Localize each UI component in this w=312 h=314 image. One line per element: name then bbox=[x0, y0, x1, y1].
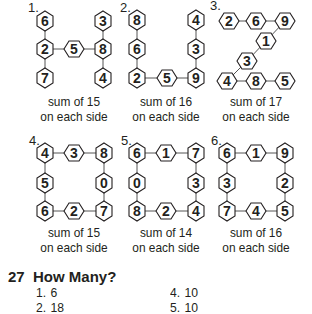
node-value: 6 bbox=[133, 145, 141, 161]
answer-item: 4.10 bbox=[170, 285, 198, 300]
node-value: 5 bbox=[70, 41, 78, 57]
answer-number: 2. bbox=[36, 300, 50, 314]
node-value: 2 bbox=[41, 41, 49, 57]
node-value: 2 bbox=[70, 203, 78, 219]
caption-sum: sum of 15 bbox=[30, 94, 118, 109]
puzzle-5-label: 5. bbox=[121, 134, 132, 147]
section-number: 27 bbox=[8, 268, 33, 285]
node-value: 5 bbox=[163, 70, 171, 86]
node-value: 0 bbox=[100, 175, 108, 191]
puzzle-4-label: 4. bbox=[29, 134, 40, 147]
puzzle-2-diagram: 8625934 bbox=[129, 10, 204, 88]
hexagon-node: 4 bbox=[188, 201, 204, 221]
hexagon-node: 4 bbox=[188, 10, 204, 30]
puzzle-3-diagram: 26913485 bbox=[217, 13, 295, 89]
node-value: 2 bbox=[133, 70, 141, 86]
hexagon-node: 8 bbox=[96, 143, 112, 163]
puzzle-3-caption: sum of 17 on each side bbox=[212, 94, 300, 124]
hexagon-node: 2 bbox=[37, 39, 53, 59]
hexagon-node: 2 bbox=[277, 173, 293, 193]
node-value: 3 bbox=[99, 13, 107, 29]
caption-side: on each side bbox=[122, 240, 210, 255]
hexagon-node: 4 bbox=[95, 68, 111, 88]
hexagon-node: 6 bbox=[246, 13, 266, 29]
node-value: 0 bbox=[133, 175, 141, 191]
hexagon-node: 6 bbox=[37, 11, 53, 31]
hexagon-node: 8 bbox=[129, 201, 145, 221]
hexagon-node: 3 bbox=[188, 173, 204, 193]
node-value: 6 bbox=[41, 203, 49, 219]
section-heading: 27How Many? bbox=[8, 268, 116, 285]
node-value: 8 bbox=[133, 12, 141, 28]
answer-value: 6 bbox=[50, 285, 57, 300]
caption-side: on each side bbox=[212, 240, 300, 255]
answer-number: 5. bbox=[170, 300, 184, 314]
node-value: 2 bbox=[225, 13, 233, 29]
caption-side: on each side bbox=[122, 109, 210, 124]
hexagon-node: 4 bbox=[217, 73, 237, 89]
hexagon-node: 1 bbox=[256, 33, 276, 49]
hexagon-node: 0 bbox=[129, 173, 145, 193]
node-value: 4 bbox=[192, 12, 200, 28]
node-value: 3 bbox=[243, 53, 251, 69]
hexagon-node: 3 bbox=[64, 145, 84, 161]
hexagon-node: 3 bbox=[219, 173, 235, 193]
puzzle-5-caption: sum of 14 on each side bbox=[122, 225, 210, 255]
node-value: 4 bbox=[41, 145, 49, 161]
node-value: 1 bbox=[252, 145, 260, 161]
caption-sum: sum of 16 bbox=[122, 94, 210, 109]
node-value: 3 bbox=[192, 41, 200, 57]
caption-side: on each side bbox=[30, 240, 118, 255]
node-value: 9 bbox=[281, 13, 289, 29]
hexagon-node: 6 bbox=[37, 201, 53, 221]
hexagon-node: 9 bbox=[275, 13, 295, 29]
node-value: 6 bbox=[133, 41, 141, 57]
node-value: 8 bbox=[252, 73, 260, 89]
hexagon-node: 2 bbox=[129, 68, 145, 88]
node-value: 2 bbox=[162, 203, 170, 219]
hexagon-node: 8 bbox=[129, 10, 145, 30]
puzzle-3-label: 3. bbox=[210, 0, 221, 12]
caption-sum: sum of 15 bbox=[30, 225, 118, 240]
puzzle-2-label: 2. bbox=[120, 1, 131, 14]
answer-item: 1.6 bbox=[36, 285, 57, 300]
node-value: 6 bbox=[223, 145, 231, 161]
node-value: 4 bbox=[252, 203, 260, 219]
hexagon-node: 7 bbox=[96, 201, 112, 221]
caption-sum: sum of 14 bbox=[122, 225, 210, 240]
node-value: 3 bbox=[223, 175, 231, 191]
caption-sum: sum of 17 bbox=[212, 94, 300, 109]
node-value: 8 bbox=[99, 41, 107, 57]
node-value: 9 bbox=[281, 145, 289, 161]
hexagon-node: 7 bbox=[219, 201, 235, 221]
node-value: 9 bbox=[192, 70, 200, 86]
caption-sum: sum of 16 bbox=[212, 225, 300, 240]
hexagon-node: 8 bbox=[246, 73, 266, 89]
hexagon-node: 9 bbox=[277, 143, 293, 163]
node-value: 4 bbox=[223, 73, 231, 89]
hexagon-node: 5 bbox=[157, 70, 177, 86]
puzzle-5-diagram: 61734280 bbox=[129, 143, 204, 221]
hexagon-node: 1 bbox=[156, 145, 176, 161]
node-value: 8 bbox=[133, 203, 141, 219]
puzzle-6-label: 6. bbox=[211, 134, 222, 147]
node-value: 5 bbox=[41, 175, 49, 191]
hexagon-puzzle-diagrams: 6275384862593426913485438072656173428061… bbox=[0, 0, 312, 260]
puzzle-1-diagram: 6275384 bbox=[37, 11, 111, 88]
puzzle-4-diagram: 43807265 bbox=[37, 143, 112, 221]
node-value: 7 bbox=[41, 70, 49, 86]
node-value: 5 bbox=[281, 73, 289, 89]
node-value: 2 bbox=[281, 175, 289, 191]
caption-side: on each side bbox=[30, 109, 118, 124]
node-value: 4 bbox=[192, 203, 200, 219]
hexagon-node: 2 bbox=[219, 13, 239, 29]
node-value: 7 bbox=[100, 203, 108, 219]
node-value: 6 bbox=[252, 13, 260, 29]
puzzle-4-caption: sum of 15 on each side bbox=[30, 225, 118, 255]
puzzle-6-caption: sum of 16 on each side bbox=[212, 225, 300, 255]
hexagon-node: 4 bbox=[246, 203, 266, 219]
node-value: 8 bbox=[100, 145, 108, 161]
hexagon-node: 5 bbox=[37, 173, 53, 193]
node-value: 1 bbox=[262, 33, 270, 49]
hexagon-node: 7 bbox=[37, 68, 53, 88]
